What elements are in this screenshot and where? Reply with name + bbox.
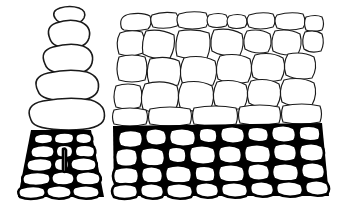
cairn-rubble-base — [18, 130, 104, 199]
wall-lower-rubble-mortar — [112, 123, 329, 199]
wall-upper-random-rubble — [113, 12, 324, 126]
masonry-figure: Dry-stone masonry construction detail Li… — [0, 0, 339, 204]
masonry-drawing — [0, 0, 339, 204]
